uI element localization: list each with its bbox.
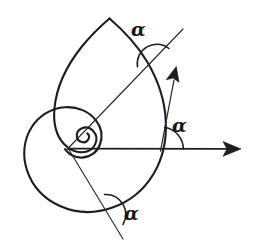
tangent-arrow-group bbox=[161, 67, 180, 152]
alpha-label-middle: α bbox=[172, 116, 187, 135]
radial-ray-lower bbox=[67, 147, 123, 240]
alpha-label-bottom: α bbox=[124, 204, 139, 223]
radial-ray-lower-group bbox=[67, 147, 123, 240]
tangent-arrowhead bbox=[166, 67, 179, 83]
figure-canvas: α α α bbox=[0, 0, 257, 248]
alpha-label-top: α bbox=[131, 20, 146, 39]
